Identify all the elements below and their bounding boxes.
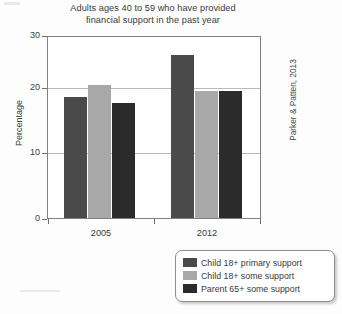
legend-item-label: Child 18+ primary support (201, 258, 302, 268)
bar-2012-parent-some (219, 91, 242, 218)
x-tick-mark-middle (154, 219, 155, 224)
legend-swatch-icon (183, 271, 197, 280)
bar-2012-child-primary (171, 55, 194, 218)
chart-title: Adults ages 40 to 59 who have provided f… (38, 3, 268, 26)
legend-swatch-icon (183, 284, 197, 293)
plot-area (47, 36, 261, 219)
legend-swatch-icon (183, 258, 197, 267)
legend-item: Child 18+ some support (183, 269, 327, 282)
chart-title-line-1: Adults ages 40 to 59 who have provided (38, 3, 268, 15)
y-tick-label-10: 10 (14, 148, 40, 157)
bar-2005-parent-some (112, 103, 135, 218)
scan-artifact (20, 290, 60, 292)
bar-2005-child-some (88, 85, 111, 218)
legend-item: Parent 65+ some support (183, 282, 327, 295)
y-tick-label-30: 30 (14, 31, 40, 40)
source-credit: Parker & Patten, 2013 (288, 35, 298, 165)
x-tick-label-2005: 2005 (71, 228, 131, 238)
x-tick-label-2012: 2012 (177, 228, 237, 238)
legend-item-label: Parent 65+ some support (201, 284, 300, 294)
y-tick-label-20: 20 (14, 83, 40, 92)
x-tick-mark-left (48, 219, 49, 224)
scan-artifact (4, 2, 20, 5)
y-tick-mark-0 (42, 219, 47, 220)
x-tick-mark-right (260, 219, 261, 224)
y-tick-label-0: 0 (14, 214, 40, 223)
gridline-20 (48, 88, 260, 89)
legend-item: Child 18+ primary support (183, 256, 327, 269)
chart-legend: Child 18+ primary support Child 18+ some… (175, 250, 335, 302)
bar-2005-child-primary (64, 97, 87, 218)
chart-figure: Adults ages 40 to 59 who have provided f… (0, 0, 342, 314)
chart-title-line-2: financial support in the past year (38, 15, 268, 27)
bar-2012-child-some (195, 91, 218, 218)
legend-item-label: Child 18+ some support (201, 271, 294, 281)
